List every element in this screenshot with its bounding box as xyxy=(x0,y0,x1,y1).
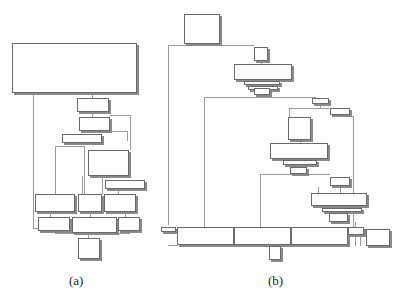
cfg-basic-block xyxy=(12,43,137,93)
cfg-edge xyxy=(289,108,290,117)
cfg-edge xyxy=(55,233,130,234)
cfg-basic-block xyxy=(291,227,348,245)
cfg-edge xyxy=(110,131,128,132)
cfg-basic-block xyxy=(288,117,311,140)
cfg-basic-block xyxy=(79,117,110,131)
cfg-edge xyxy=(260,174,261,227)
caption-b: (b) xyxy=(268,273,283,289)
cfg-basic-block xyxy=(88,150,129,176)
cfg-basic-block xyxy=(35,194,75,212)
cfg-basic-block xyxy=(311,193,367,206)
cfg-basic-block xyxy=(72,217,117,233)
cfg-basic-block xyxy=(244,81,280,85)
cfg-basic-block xyxy=(329,213,348,222)
cfg-basic-block xyxy=(104,194,136,212)
cfg-edge xyxy=(84,146,85,194)
cfg-basic-block xyxy=(322,208,362,212)
cfg-basic-block xyxy=(366,229,390,246)
cfg-edge xyxy=(127,131,128,141)
cfg-basic-block xyxy=(77,98,109,112)
cfg-edge xyxy=(102,176,103,194)
cfg-basic-block xyxy=(254,88,270,95)
cfg-edge xyxy=(289,108,329,109)
cfg-basic-block xyxy=(177,227,234,245)
caption-a: (a) xyxy=(69,273,83,289)
cfg-basic-block xyxy=(270,143,328,159)
cfg-basic-block xyxy=(254,47,268,61)
cfg-basic-block xyxy=(78,238,100,259)
cfg-edge xyxy=(82,176,83,194)
cfg-basic-block xyxy=(184,14,220,44)
cfg-basic-block xyxy=(38,217,70,231)
figure-canvas: (a) (b) xyxy=(0,0,404,297)
cfg-basic-block xyxy=(118,217,140,231)
cfg-edge xyxy=(130,115,131,150)
cfg-edge xyxy=(355,236,356,246)
cfg-basic-block xyxy=(234,64,292,80)
cfg-basic-block xyxy=(330,108,350,115)
cfg-basic-block xyxy=(290,167,307,174)
cfg-basic-block xyxy=(330,177,350,186)
cfg-edge xyxy=(340,116,354,117)
cfg-edge xyxy=(55,146,85,147)
cfg-edge xyxy=(55,146,56,194)
cfg-edge xyxy=(33,93,34,228)
cfg-basic-block xyxy=(234,227,291,245)
cfg-basic-block xyxy=(269,246,281,260)
cfg-edge xyxy=(204,97,316,98)
cfg-basic-block xyxy=(348,227,364,235)
cfg-edge xyxy=(168,45,254,46)
cfg-basic-block xyxy=(78,194,102,212)
cfg-basic-block xyxy=(62,134,102,143)
cfg-basic-block xyxy=(161,227,176,232)
cfg-edge xyxy=(168,45,169,225)
cfg-basic-block xyxy=(283,160,317,165)
cfg-basic-block xyxy=(312,98,329,104)
cfg-basic-block xyxy=(105,180,145,189)
cfg-edge xyxy=(168,245,178,246)
cfg-edge xyxy=(204,97,205,227)
cfg-edge xyxy=(260,174,330,175)
cfg-edge xyxy=(110,115,130,116)
cfg-edge xyxy=(360,236,361,246)
